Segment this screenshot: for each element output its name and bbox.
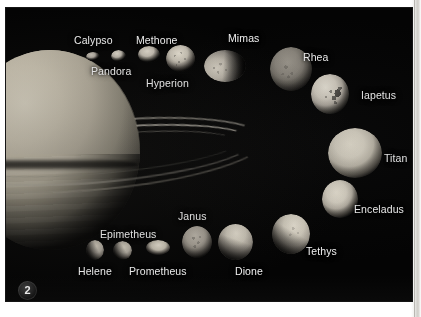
moon-label-methone: Methone: [136, 35, 178, 46]
moon-label-hyperion: Hyperion: [146, 78, 189, 89]
moon-prometheus: [146, 240, 170, 255]
photo-bottom-shade: [6, 275, 412, 301]
moon-titan: [328, 128, 382, 178]
moon-label-rhea: Rhea: [303, 52, 329, 63]
moon-label-janus: Janus: [178, 211, 207, 222]
moon-epimetheus: [113, 241, 132, 260]
moon-label-iapetus: Iapetus: [361, 90, 396, 101]
moon-methone: [138, 46, 160, 63]
moon-helene: [86, 240, 104, 260]
saturn-system-photo: Calypso Pandora Methone Hyperion Mimas R…: [6, 8, 412, 301]
moon-label-helene: Helene: [78, 266, 112, 277]
moon-label-calypso: Calypso: [74, 35, 113, 46]
moon-label-mimas: Mimas: [228, 33, 259, 44]
moon-janus: [182, 226, 212, 258]
moon-pandora: [111, 50, 126, 62]
page-edge-line: [414, 0, 415, 317]
moon-iapetus: [311, 74, 349, 114]
moon-label-prometheus: Prometheus: [129, 266, 187, 277]
moon-label-enceladus: Enceladus: [354, 204, 404, 215]
moon-tethys: [272, 214, 310, 254]
moon-label-titan: Titan: [384, 153, 407, 164]
moon-dione: [218, 224, 253, 260]
figure-number-text: 2: [24, 285, 30, 296]
moon-hyperion: [166, 45, 195, 72]
moon-enceladus: [322, 180, 358, 218]
page-edge-strip: [411, 0, 421, 317]
figure-number-badge: 2: [18, 281, 37, 300]
moon-calypso: [86, 52, 100, 61]
moon-label-dione: Dione: [235, 266, 263, 277]
moon-label-epimethus: Epimetheus: [100, 229, 156, 240]
moon-label-tethys: Tethys: [306, 246, 337, 257]
moon-mimas: [204, 50, 246, 82]
moon-label-pandora: Pandora: [91, 66, 131, 77]
figure-page: Calypso Pandora Methone Hyperion Mimas R…: [0, 0, 421, 317]
